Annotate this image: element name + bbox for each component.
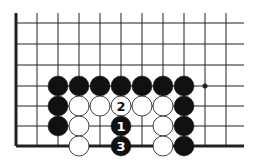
- black-stone: [153, 76, 173, 96]
- move-3-black-stone: 3: [111, 136, 131, 156]
- white-stone: [153, 136, 173, 156]
- move-number-label: 3: [116, 139, 125, 154]
- move-1-black-stone: 1: [111, 116, 131, 136]
- black-stone: [48, 116, 68, 136]
- white-stone: [69, 96, 89, 116]
- black-stone: [174, 136, 194, 156]
- white-stone: [90, 96, 110, 116]
- star-point-icon: [203, 84, 208, 89]
- black-stone: [111, 76, 131, 96]
- stones-layer: 213: [48, 76, 194, 156]
- move-2-white-stone: 2: [111, 96, 131, 116]
- black-stone: [48, 76, 68, 96]
- move-number-label: 1: [116, 119, 125, 134]
- white-stone: [153, 116, 173, 136]
- white-stone: [153, 96, 173, 116]
- black-stone: [132, 76, 152, 96]
- black-stone: [174, 96, 194, 116]
- black-stone: [90, 76, 110, 96]
- move-number-label: 2: [116, 99, 125, 114]
- white-stone: [132, 96, 152, 116]
- white-stone: [69, 136, 89, 156]
- black-stone: [174, 116, 194, 136]
- black-stone: [69, 76, 89, 96]
- black-stone: [174, 76, 194, 96]
- black-stone: [48, 96, 68, 116]
- white-stone: [69, 116, 89, 136]
- go-board: 213: [0, 0, 258, 165]
